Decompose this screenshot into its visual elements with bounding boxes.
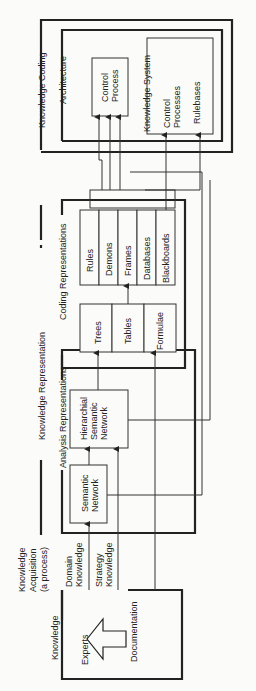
coding-label: Coding Representations: [58, 223, 68, 320]
databases-label: Databases: [142, 236, 152, 280]
svg-text:Knowledge: Knowledge: [104, 542, 114, 587]
svg-text:Acquisition: Acquisition: [28, 548, 38, 592]
analysis-label: Analysis Representations: [58, 366, 68, 468]
frames-label: Frames: [123, 245, 133, 276]
rules-label: Rules: [85, 248, 95, 272]
svg-text:Semantic: Semantic: [89, 402, 99, 440]
trees-label: Trees: [93, 321, 103, 344]
knowledge-coding-label: Knowledge Coding: [37, 52, 47, 128]
knowledge-coding-frame: [41, 20, 232, 152]
rulebases-label: Rulebases: [192, 81, 202, 124]
knowledge-label: Knowledge: [50, 615, 60, 660]
knowledge-representation-label: Knowledge Representation: [37, 332, 47, 440]
formulae-label: Formulae: [155, 312, 165, 350]
svg-text:Knowledge: Knowledge: [17, 547, 27, 592]
svg-text:Strategy: Strategy: [94, 553, 104, 587]
svg-text:Network: Network: [99, 406, 109, 440]
knowledge-system-label: Knowledge System: [142, 55, 152, 132]
svg-text:Domain: Domain: [64, 556, 74, 587]
svg-text:Control: Control: [100, 73, 110, 102]
documentation-label: Documentation: [129, 601, 139, 662]
svg-text:Hierarchial: Hierarchial: [79, 397, 89, 440]
knowledge-engineering-diagram: Knowledge Experts Documentation Knowledg…: [0, 0, 256, 691]
domain-knowledge-label: Domain Knowledge: [64, 542, 84, 587]
strategy-knowledge-label: Strategy Knowledge: [94, 542, 114, 587]
svg-text:Knowledge: Knowledge: [74, 542, 84, 587]
demons-label: Demons: [104, 242, 114, 276]
acquisition-label: Knowledge Acquisition (a process): [17, 547, 49, 592]
svg-text:(a process): (a process): [39, 547, 49, 592]
architecture-label: Architecture: [58, 56, 68, 104]
svg-text:Semantic: Semantic: [80, 474, 90, 512]
left-arrow-icon: [87, 619, 126, 659]
tables-label: Tables: [123, 317, 133, 344]
svg-text:Process: Process: [110, 69, 120, 102]
blackboards-label: Blackboards: [161, 233, 171, 283]
svg-text:Control: Control: [162, 99, 172, 128]
svg-text:Processes: Processes: [172, 85, 182, 128]
svg-text:Network: Network: [90, 478, 100, 512]
